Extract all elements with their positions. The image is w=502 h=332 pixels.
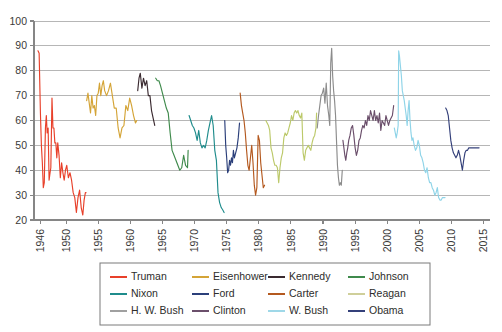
series-line-truman [38, 51, 86, 215]
y-tick-label-50: 50 [15, 139, 27, 151]
legend-label: Eisenhower [213, 270, 268, 282]
series-line-carter [240, 93, 264, 195]
legend-label: Nixon [131, 287, 158, 299]
x-tick-label-2015: 2015 [477, 229, 489, 253]
series-line-obama [446, 108, 479, 170]
x-tick-label-1965: 1965 [156, 229, 168, 253]
series-line-h-w-bush [317, 48, 342, 185]
series-line-kennedy [138, 73, 155, 125]
x-axis-tick-labels: 1946195019551960196519701975198019851990… [34, 229, 489, 253]
y-tick-label-80: 80 [15, 64, 27, 76]
legend-label: Kennedy [289, 270, 331, 282]
series-line-w-bush [394, 51, 445, 200]
y-tick-label-90: 90 [15, 39, 27, 51]
x-tick-label-1985: 1985 [285, 229, 297, 253]
x-tick-label-1960: 1960 [124, 229, 136, 253]
x-tick-label-1995: 1995 [349, 229, 361, 253]
legend-label: Johnson [369, 270, 409, 282]
x-tick-label-2005: 2005 [413, 229, 425, 253]
x-tick-label-1955: 1955 [92, 229, 104, 253]
chart-legend: TrumanEisenhowerKennedyJohnsonNixonFordC… [100, 263, 430, 325]
series-line-eisenhower [87, 81, 137, 138]
legend-label: Clinton [213, 304, 246, 316]
legend-label: Carter [289, 287, 319, 299]
series-line-ford [225, 121, 240, 173]
series-line-reagan [266, 111, 317, 183]
x-tick-label-1946: 1946 [34, 229, 46, 253]
series-line-johnson [156, 78, 188, 170]
x-tick-label-1975: 1975 [220, 229, 232, 253]
y-axis-tick-labels: 2030405060708090100 [9, 15, 27, 226]
x-tick-label-1980: 1980 [252, 229, 264, 253]
y-tick-label-20: 20 [15, 214, 27, 226]
y-tick-label-100: 100 [9, 15, 27, 27]
legend-label: H. W. Bush [131, 304, 184, 316]
chart-canvas: 2030405060708090100 19461950195519601965… [0, 0, 502, 332]
legend-label: Obama [369, 304, 404, 316]
presidential-approval-chart: 2030405060708090100 19461950195519601965… [0, 0, 502, 332]
legend-label: Ford [213, 287, 235, 299]
x-tick-label-2010: 2010 [445, 229, 457, 253]
data-series [38, 48, 479, 215]
x-tick-label-1970: 1970 [188, 229, 200, 253]
y-tick-label-40: 40 [15, 164, 27, 176]
x-tick-label-1950: 1950 [60, 229, 72, 253]
legend-label: Truman [131, 270, 167, 282]
legend-label: Reagan [369, 287, 406, 299]
series-line-clinton [343, 106, 394, 161]
y-tick-label-60: 60 [15, 114, 27, 126]
axes [30, 21, 490, 224]
x-tick-label-1990: 1990 [317, 229, 329, 253]
y-tick-label-30: 30 [15, 189, 27, 201]
grid-lines [34, 21, 490, 220]
series-line-nixon [189, 116, 224, 213]
y-tick-label-70: 70 [15, 89, 27, 101]
x-tick-label-2000: 2000 [381, 229, 393, 253]
legend-label: W. Bush [289, 304, 328, 316]
